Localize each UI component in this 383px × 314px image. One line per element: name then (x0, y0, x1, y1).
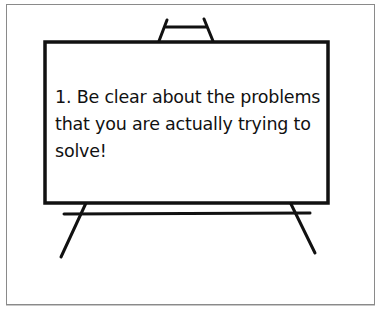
board-text: 1. Be clear about the problems that you … (55, 84, 323, 165)
easel-legs-icon (61, 202, 315, 257)
board-text-line-3: solve! (55, 138, 323, 165)
easel-top-bracket-icon (159, 19, 213, 41)
board-text-line-1: 1. Be clear about the problems (55, 84, 323, 111)
board-text-line-2: that you are actually trying to (55, 111, 323, 138)
